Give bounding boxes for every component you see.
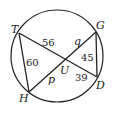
point-label-D: D (95, 79, 105, 92)
point-label-G: G (96, 19, 105, 32)
length-label-TH: 60 (26, 57, 39, 68)
length-label-UD: 39 (75, 72, 88, 83)
point-label-H: H (18, 92, 29, 105)
segment-GD (96, 32, 97, 77)
length-label-HU: p (48, 73, 55, 86)
length-label-GD: 45 (81, 52, 94, 63)
circle-chords-diagram: T G D H U 56 q 45 60 p 39 (0, 0, 114, 115)
length-label-TU: 56 (42, 37, 55, 48)
length-label-UG: q (74, 35, 81, 48)
point-label-U: U (60, 64, 70, 77)
